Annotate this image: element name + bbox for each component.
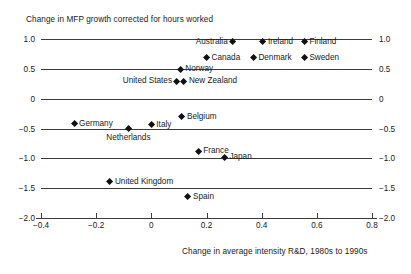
- y-axis-stub: [36, 218, 41, 219]
- data-point-label: Australia: [196, 38, 228, 46]
- y-tick-label-right: 0.5: [379, 64, 390, 73]
- data-point-label: Finland: [309, 38, 336, 46]
- x-tick-label: −0.4: [33, 221, 49, 230]
- data-point-label: New Zealand: [189, 77, 237, 85]
- data-point-label: Sweden: [309, 54, 339, 62]
- x-tick: [41, 213, 42, 218]
- x-tick: [317, 213, 318, 218]
- gridline: [41, 99, 372, 100]
- x-tick: [151, 213, 152, 218]
- x-tick-label: 0: [149, 221, 154, 230]
- gridline: [41, 188, 372, 189]
- y-axis-title: Change in MFP growth corrected for hours…: [26, 15, 213, 24]
- data-point-label: United Kingdom: [115, 178, 173, 186]
- diamond-marker: [250, 54, 257, 61]
- diamond-marker: [184, 193, 191, 200]
- diamond-marker: [106, 178, 113, 185]
- data-point-label: Netherlands: [106, 134, 150, 142]
- y-tick-label-right: −0.5: [379, 124, 395, 133]
- x-axis-title: Change in average intensity R&D, 1980s t…: [182, 247, 367, 256]
- data-point-label: Germany: [79, 120, 113, 128]
- y-tick-label-right: 0: [379, 94, 384, 103]
- x-tick-label: 0.2: [201, 221, 212, 230]
- diamond-marker: [301, 38, 308, 45]
- diamond-marker: [177, 66, 184, 73]
- x-tick: [262, 213, 263, 218]
- x-tick-label: 0.4: [256, 221, 267, 230]
- y-tick-label-left: 1.0: [24, 35, 35, 44]
- gridline: [41, 158, 372, 159]
- data-point-label: Spain: [193, 193, 214, 201]
- data-point-label: Norway: [185, 65, 213, 73]
- x-axis-line: [41, 218, 372, 219]
- diamond-marker: [203, 54, 210, 61]
- diamond-marker: [70, 120, 77, 127]
- y-tick-label-right: −1.5: [379, 184, 395, 193]
- data-point-label: Italy: [156, 121, 171, 129]
- y-tick-label-right: 1.0: [379, 35, 390, 44]
- y-tick-label-right: −1.0: [379, 154, 395, 163]
- diamond-marker: [148, 121, 155, 128]
- y-tick-label-left: 0.5: [24, 64, 35, 73]
- data-point-label: Canada: [212, 54, 241, 62]
- diamond-marker: [125, 125, 132, 132]
- y-tick-label-left: 0: [30, 94, 35, 103]
- data-point-label: Belgium: [187, 113, 217, 121]
- y-tick-label-left: −1.5: [19, 184, 35, 193]
- x-tick-label: 0.8: [366, 221, 377, 230]
- x-tick: [96, 213, 97, 218]
- data-point-label: Denmark: [258, 54, 291, 62]
- x-tick-label: −0.2: [88, 221, 104, 230]
- plot-area: AustraliaIrelandFinlandCanadaDenmarkSwed…: [41, 39, 372, 218]
- x-tick: [207, 213, 208, 218]
- diamond-marker: [301, 54, 308, 61]
- y-tick-label-left: −0.5: [19, 124, 35, 133]
- x-tick-label: 0.6: [311, 221, 322, 230]
- y-tick-label-left: −1.0: [19, 154, 35, 163]
- gridline: [41, 129, 372, 130]
- diamond-marker: [195, 148, 202, 155]
- x-tick: [372, 213, 373, 218]
- data-point-label: United States: [123, 77, 172, 85]
- y-axis-stub: [372, 218, 377, 219]
- data-point-label: Ireland: [268, 38, 293, 46]
- y-tick-label-right: −2.0: [379, 214, 395, 223]
- diamond-marker: [178, 113, 185, 120]
- scatter-chart: Change in MFP growth corrected for hours…: [0, 0, 411, 274]
- diamond-marker: [180, 78, 187, 85]
- data-point-label: Japan: [229, 153, 251, 161]
